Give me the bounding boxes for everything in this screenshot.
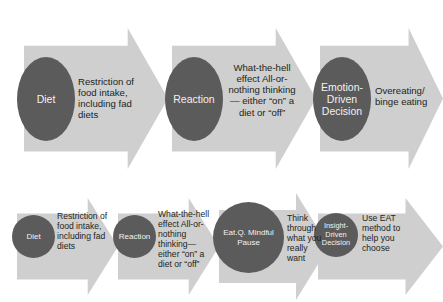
flow-node-eatq-mindful-pause: Eat.Q. Mindful Pause [213, 202, 284, 273]
arrow-caption: Restriction of food intake, including fa… [78, 76, 148, 121]
arrow-caption: What-the-hell effect All-or-nothing thin… [226, 62, 298, 118]
arrow-caption: What-the-hell effect All-or-nothing thin… [158, 210, 216, 270]
flow-node-label: Reaction [113, 232, 156, 241]
flow-node-reaction: Reaction [113, 215, 156, 258]
flow-node-label: Eat.Q. Mindful Pause [213, 228, 284, 246]
process-flow-diagram: Diet Reaction Emotion-Driven Decision Re… [0, 0, 443, 302]
flow-node-diet: Diet [17, 57, 75, 141]
arrow-caption: Restriction of food intake, including fa… [57, 212, 113, 252]
flow-node-label: Reaction [165, 93, 223, 105]
arrow-caption: Use EAT method to help you choose [362, 214, 414, 254]
flow-row-mindful: Diet Reaction Eat.Q. Mindful Pause Insig… [0, 190, 443, 300]
flow-node-label: Diet [12, 232, 55, 241]
flow-node-label: Diet [17, 93, 75, 105]
arrow-caption: Overeating/ binge eating [375, 85, 441, 107]
flow-node-diet: Diet [12, 215, 55, 258]
flow-node-label: Emotion-Driven Decision [313, 81, 371, 117]
flow-row-reactive: Diet Reaction Emotion-Driven Decision Re… [0, 18, 443, 170]
flow-node-emotion-driven-decision: Emotion-Driven Decision [313, 57, 371, 141]
flow-node-reaction: Reaction [165, 57, 223, 141]
arrow-caption: Think through what you really want [287, 214, 327, 264]
